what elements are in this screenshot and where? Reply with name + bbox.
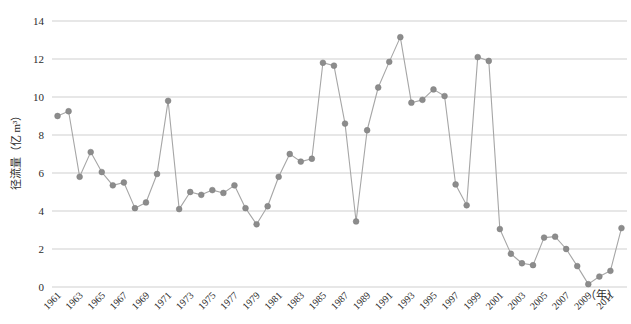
x-tick-label: 1997 [439,290,461,312]
data-point [165,98,171,104]
data-point [232,182,238,188]
y-tick-label: 14 [33,15,45,27]
data-point [475,54,481,60]
data-point [121,180,127,186]
x-tick-label: 1983 [284,290,306,312]
data-point [596,274,602,280]
data-point [187,189,193,195]
data-point [99,169,105,175]
data-point [342,121,348,127]
data-point [420,97,426,103]
data-point [287,151,293,157]
data-point [619,225,625,231]
data-point [298,159,304,165]
x-tick-label: 2007 [550,290,572,312]
y-tick-label: 4 [39,205,45,217]
x-tick-label: 1967 [107,290,129,312]
data-point [66,108,72,114]
x-tick-label: 1975 [196,290,218,312]
chart-container: 02468101214 1961196319651967196919711973… [0,0,631,324]
x-tick-label: 1979 [240,290,262,312]
x-tick-label: 1971 [152,290,174,312]
data-point [353,219,359,225]
data-point [265,203,271,209]
data-point [486,58,492,64]
data-point [442,93,448,99]
x-tick-label: 1995 [417,290,439,312]
y-tick-label: 6 [39,167,45,179]
data-point [375,85,381,91]
data-point [431,87,437,93]
y-tick-label: 8 [39,129,45,141]
data-point [585,281,591,287]
y-tick-label: 10 [33,91,45,103]
data-point [220,190,226,196]
y-axis-title: 径流量（亿 m³） [9,110,22,191]
data-point [530,262,536,268]
data-point [110,182,116,188]
x-tick-label: 1993 [395,290,417,312]
x-tick-label: 1987 [329,290,351,312]
data-point [464,202,470,208]
data-point [276,174,282,180]
x-tick-label: 1985 [306,290,328,312]
data-point [397,34,403,40]
data-point [408,100,414,106]
x-tick-label: 1961 [41,290,63,312]
data-point [497,226,503,232]
data-line-group [58,37,622,284]
x-tick-label: 1973 [174,290,196,312]
data-point [331,63,337,69]
data-point [309,156,315,162]
y-axis-tick-labels: 02468101214 [33,15,45,293]
y-tick-label: 2 [39,243,45,255]
x-tick-label: 1963 [63,290,85,312]
chart-plot-area: 02468101214 1961196319651967196919711973… [33,15,627,312]
x-tick-label: 1999 [461,290,483,312]
data-point [453,182,459,188]
y-tick-label: 0 [39,281,45,293]
data-point [88,149,94,155]
data-point [143,200,149,206]
data-point [386,59,392,65]
x-axis-tick-labels: 1961196319651967196919711973197519771979… [41,290,616,312]
x-tick-label: 2005 [528,290,550,312]
series-line-径流量 [58,37,622,284]
data-point [519,260,525,266]
y-tick-label: 12 [33,53,44,65]
x-tick-label: 2001 [483,290,505,312]
data-point [243,205,249,211]
x-tick-label: 1991 [373,290,395,312]
x-tick-label: 1977 [218,290,240,312]
data-point [132,205,138,211]
data-point [552,234,558,240]
x-tick-label: 1969 [129,290,151,312]
data-point [154,171,160,177]
runoff-line-chart: 02468101214 1961196319651967196919711973… [0,0,631,324]
data-point [198,192,204,198]
data-point [320,60,326,66]
data-point [55,113,61,119]
data-point [574,263,580,269]
data-point [77,174,83,180]
x-axis-title: （年） [585,288,618,301]
x-tick-label: 1965 [85,290,107,312]
x-tick-label: 1989 [351,290,373,312]
data-point [508,251,514,257]
data-point [176,206,182,212]
data-point [364,127,370,133]
data-point [563,246,569,252]
data-point [541,235,547,241]
x-tick-label: 2003 [505,290,527,312]
x-tick-label: 1981 [262,290,284,312]
data-point [608,268,614,274]
data-point [254,221,260,227]
data-point [209,187,215,193]
